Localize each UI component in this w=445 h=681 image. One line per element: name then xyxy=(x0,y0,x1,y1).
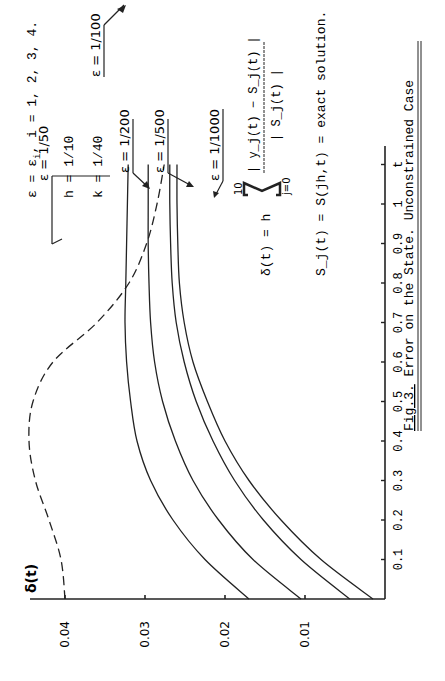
annotation-eps-200: ε = 1/200 xyxy=(117,109,150,189)
annotation-eps-500: ε = 1/500 xyxy=(152,109,194,187)
exact-solution-definition: S_j(t) = S(jh,t) = exact solution. xyxy=(314,11,329,276)
y-tick-label: 0.03 xyxy=(138,621,152,648)
y-ticks: 0.010.020.030.04 xyxy=(58,595,312,648)
chart-plot: 0.10.20.30.40.50.60.70.80.91t 0.010.020.… xyxy=(0,0,445,681)
label-eps-100: ε = 1/100 xyxy=(88,13,103,77)
y-axis-label: δ(t) xyxy=(23,564,39,593)
fraction-numerator: | y_j(t) − S_j(t) | xyxy=(247,36,261,173)
annotation-eps-1000: ε = 1/1000 xyxy=(207,109,223,198)
delta-formula-lhs: δ(t) = h xyxy=(259,214,274,276)
label-eps-200: ε = 1/200 xyxy=(117,109,132,173)
annotation-eps-100: ε = 1/100 xyxy=(88,5,126,77)
fraction-denominator: | S_j(t) | xyxy=(270,69,284,141)
k-parameter: k = 1/40 xyxy=(91,136,106,198)
curve-150 xyxy=(29,165,164,600)
figure-page: 0.10.20.30.40.50.60.70.80.91t 0.010.020.… xyxy=(0,0,445,681)
rotated-figure: 0.10.20.30.40.50.60.70.80.91t 0.010.020.… xyxy=(0,0,445,681)
y-tick-label: 0.04 xyxy=(58,621,72,648)
x-tick-label: 0.2 xyxy=(392,509,406,531)
label-eps-1000: ε = 1/1000 xyxy=(207,109,222,181)
formula-block: δ(t) = h 10 j=0 | y_j(t) − S_j(t) | | S_… xyxy=(233,11,329,276)
label-eps-500: ε = 1/500 xyxy=(152,109,167,173)
y-tick-label: 0.01 xyxy=(298,621,312,648)
x-tick-label: 0.4 xyxy=(392,430,406,452)
h-parameter: h = 1/10 xyxy=(62,136,77,198)
sum-upper-limit: 10 xyxy=(233,182,244,195)
x-tick-label: 0.1 xyxy=(392,549,406,571)
curve-1200 xyxy=(148,165,301,600)
curve-1100 xyxy=(125,165,249,600)
figure-caption: Fig.3. Error on the State. Unconstrained… xyxy=(402,80,417,431)
y-tick-label: 0.02 xyxy=(218,621,232,648)
sum-lower-limit: j=0 xyxy=(281,177,292,196)
x-tick-label: 0.3 xyxy=(392,470,406,492)
sum-symbol xyxy=(244,183,280,195)
